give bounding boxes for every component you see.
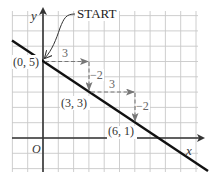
point-label-3-3: (3, 3) [61, 96, 87, 110]
y-axis-label: y [29, 8, 37, 23]
run-label-1: 3 [62, 46, 68, 60]
origin-label: O [32, 142, 41, 156]
rise-label-2: −2 [136, 99, 149, 113]
run-label-2: 3 [109, 77, 115, 91]
point-label-0-5: (0, 5) [13, 55, 39, 69]
coordinate-graph: y x O 3 −2 3 −2 (0, 5) (3, 3) (6, 1) STA… [0, 0, 211, 175]
start-label: START [77, 6, 116, 21]
point-label-6-1: (6, 1) [108, 124, 134, 138]
rise-label-1: −2 [90, 68, 103, 82]
